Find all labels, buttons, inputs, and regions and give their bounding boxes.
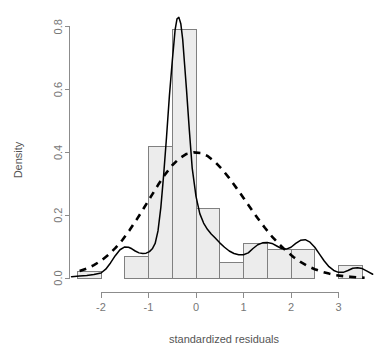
histogram-bars: [77, 30, 362, 278]
density-curves: [72, 17, 373, 277]
x-tick-label: 2: [288, 301, 294, 313]
y-tick-label: 0.6: [52, 82, 64, 97]
y-tick-label: 0.8: [52, 19, 64, 34]
kde-curve: [72, 17, 373, 276]
x-tick-label: -2: [96, 301, 106, 313]
histogram-bar: [220, 262, 244, 278]
x-tick-label: 3: [335, 301, 341, 313]
chart-svg: -2-10123 0.00.20.40.60.8 standardized re…: [0, 0, 387, 353]
y-tick-label: 0.4: [52, 145, 64, 160]
y-tick-label: 0.0: [52, 270, 64, 285]
y-axis-tick-labels: 0.00.20.40.60.8: [52, 19, 64, 285]
histogram-bar: [196, 209, 220, 278]
y-axis-title: Density: [12, 141, 24, 178]
y-tick-label: 0.2: [52, 208, 64, 223]
histogram-bar: [244, 243, 268, 278]
histogram-bar: [125, 256, 149, 278]
x-tick-label: 0: [193, 301, 199, 313]
y-axis: [65, 27, 70, 278]
x-axis: [101, 293, 339, 298]
histogram-bar: [267, 250, 291, 278]
density-histogram-chart: -2-10123 0.00.20.40.60.8 standardized re…: [0, 0, 387, 353]
x-axis-title: standardized residuals: [169, 333, 280, 345]
x-tick-label: -1: [144, 301, 154, 313]
x-axis-tick-labels: -2-10123: [96, 301, 341, 313]
x-tick-label: 1: [240, 301, 246, 313]
